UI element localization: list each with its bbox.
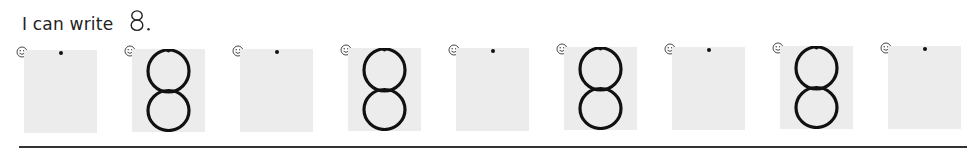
practice-cell[interactable]: [776, 39, 856, 131]
practice-cell[interactable]: [560, 40, 640, 132]
start-dot: [275, 50, 279, 54]
start-dot: [707, 48, 711, 52]
digit-eight-glyph: [132, 49, 205, 132]
writing-box[interactable]: [456, 48, 529, 131]
digit-eight-glyph: [348, 48, 421, 131]
practice-cell[interactable]: [128, 42, 208, 134]
practice-cell[interactable]: [20, 43, 100, 135]
traced-digit-box: [780, 46, 853, 129]
next-row-partial-digit: [164, 152, 178, 157]
practice-cell[interactable]: [884, 39, 964, 131]
digit-eight-glyph: [564, 47, 637, 130]
practice-cell[interactable]: [236, 42, 316, 134]
traced-digit-box: [348, 48, 421, 131]
heading-digit-eight: [130, 10, 156, 36]
writing-box[interactable]: [888, 46, 961, 129]
practice-cell[interactable]: [452, 41, 532, 133]
writing-box[interactable]: [24, 50, 97, 133]
start-dot: [59, 51, 63, 55]
writing-baseline-rule: [19, 146, 967, 148]
practice-cell[interactable]: [344, 41, 424, 133]
traced-digit-box: [132, 49, 205, 132]
digit-eight-glyph: [780, 46, 853, 129]
heading-text: I can write: [22, 14, 113, 34]
start-dot: [491, 49, 495, 53]
start-dot: [923, 47, 927, 51]
writing-box[interactable]: [672, 47, 745, 130]
writing-box[interactable]: [240, 49, 313, 132]
practice-cell[interactable]: [668, 40, 748, 132]
traced-digit-box: [564, 47, 637, 130]
